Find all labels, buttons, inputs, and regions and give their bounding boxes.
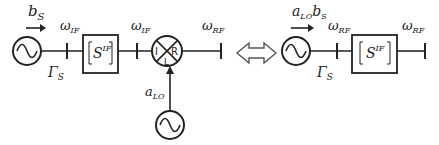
lo-label: aLO [145, 84, 165, 101]
source-wave-label: bS [28, 2, 45, 22]
signal-source-icon [282, 37, 310, 65]
reflection-label: ΓS [47, 64, 64, 82]
reflection-label: ΓS [316, 64, 333, 82]
left-circuit: bS ωIF ΓS SIF ωIF I R [13, 2, 225, 139]
mixer-icon: I R L [152, 36, 182, 67]
equivalence-double-arrow-icon [237, 43, 276, 63]
mixer-port-if: I [155, 46, 158, 57]
source-wave-label: aLObS [292, 3, 327, 21]
freq-label-1: ωIF [60, 18, 80, 35]
right-circuit: aLObS ωRF ΓS SIF ωRF [282, 3, 425, 82]
diagram-canvas: bS ωIF ΓS SIF ωIF I R [0, 0, 439, 145]
mixer-port-rf: R [171, 46, 178, 57]
lo-arrow-icon [166, 66, 174, 74]
wave-arrow-icon [26, 24, 46, 32]
lo-source-icon [156, 111, 184, 139]
mixer-port-lo: L [164, 57, 169, 67]
freq-label-2: ωIF [131, 18, 151, 35]
freq-label-1: ωRF [328, 18, 351, 35]
freq-label-3: ωRF [202, 18, 225, 35]
signal-source-icon [13, 37, 41, 65]
wave-arrow-icon [291, 24, 314, 32]
freq-label-2: ωRF [402, 18, 425, 35]
